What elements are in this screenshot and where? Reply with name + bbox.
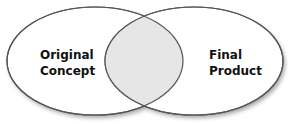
left-label-line1: Original [40, 48, 94, 62]
venn-diagram: Original Concept Final Product [0, 0, 288, 124]
right-label-line2: Product [209, 64, 262, 78]
right-label-line1: Final [209, 48, 242, 62]
left-label-line2: Concept [40, 64, 95, 78]
